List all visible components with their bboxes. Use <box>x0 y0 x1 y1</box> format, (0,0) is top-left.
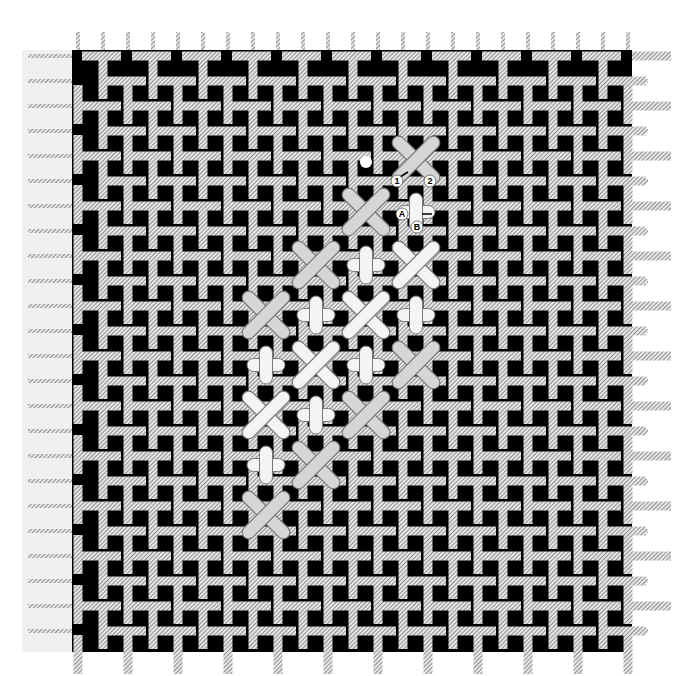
weft-thread <box>432 402 471 411</box>
warp-thread <box>149 260 158 299</box>
weft-thread <box>207 127 246 136</box>
warp-thread <box>574 285 583 324</box>
warp-thread <box>374 85 383 124</box>
weft-thread <box>132 152 171 161</box>
warp-thread <box>99 110 108 149</box>
warp-thread <box>99 360 108 399</box>
thread-end-top <box>601 32 605 50</box>
warp-thread <box>574 385 583 424</box>
warp-thread <box>349 510 358 549</box>
warp-thread <box>174 635 183 674</box>
weft-thread <box>182 402 221 411</box>
warp-thread <box>124 285 133 324</box>
weft-thread <box>257 577 296 586</box>
thread-end-left <box>28 629 72 633</box>
weft-thread <box>582 152 621 161</box>
warp-thread <box>549 510 558 549</box>
weft-thread <box>207 427 246 436</box>
warp-thread <box>449 110 458 149</box>
warp-thread <box>524 235 533 274</box>
warp-thread <box>299 510 308 549</box>
warp-thread <box>399 460 408 499</box>
thread-end-left <box>28 329 72 333</box>
weft-thread <box>457 477 496 486</box>
warp-thread <box>149 560 158 599</box>
weft-thread <box>632 352 671 361</box>
warp-thread <box>299 160 308 199</box>
warp-thread <box>224 185 233 224</box>
warp-thread <box>124 535 133 574</box>
warp-thread <box>549 410 558 449</box>
warp-thread <box>399 60 408 99</box>
start-dot-icon <box>360 156 372 168</box>
weft-thread <box>307 227 346 236</box>
weft-thread <box>632 202 671 211</box>
warp-thread <box>74 585 83 624</box>
thread-end-top <box>376 32 380 50</box>
warp-thread <box>574 535 583 574</box>
warp-thread <box>449 260 458 299</box>
warp-thread <box>424 485 433 524</box>
warp-thread <box>624 585 633 624</box>
warp-thread <box>174 535 183 574</box>
weft-thread <box>407 77 446 86</box>
weft-thread <box>107 177 146 186</box>
weft-thread <box>632 52 671 61</box>
weft-thread <box>182 302 221 311</box>
warp-thread <box>474 485 483 524</box>
weft-thread <box>182 52 221 61</box>
weft-thread <box>582 352 621 361</box>
weft-thread <box>532 352 571 361</box>
left-margin <box>22 50 72 652</box>
thread-end-left <box>28 529 72 533</box>
warp-thread <box>474 185 483 224</box>
thread-end-top <box>76 32 80 50</box>
weft-thread <box>357 627 396 636</box>
weft-thread <box>82 452 121 461</box>
weft-thread <box>132 552 171 561</box>
thread-end-top <box>451 32 455 50</box>
warp-thread <box>224 235 233 274</box>
point-label: A <box>399 209 406 219</box>
warp-thread <box>99 160 108 199</box>
point-label: 2 <box>427 176 432 186</box>
warp-thread <box>424 435 433 474</box>
weft-thread <box>632 402 671 411</box>
weft-thread <box>157 377 196 386</box>
stitch-arm-vertical <box>310 396 323 434</box>
weft-thread <box>257 277 296 286</box>
weft-thread <box>457 327 496 336</box>
warp-thread <box>99 310 108 349</box>
warp-thread <box>99 410 108 449</box>
weft-thread <box>82 252 121 261</box>
warp-thread <box>499 310 508 349</box>
weft-thread <box>82 52 121 61</box>
warp-thread <box>174 385 183 424</box>
weft-thread <box>482 352 521 361</box>
warp-thread <box>624 185 633 224</box>
weft-thread <box>182 552 221 561</box>
warp-thread <box>374 535 383 574</box>
warp-thread <box>124 585 133 624</box>
weft-thread <box>557 427 596 436</box>
thread-end-left <box>28 354 72 358</box>
weft-thread <box>632 252 671 261</box>
warp-thread <box>524 135 533 174</box>
weft-thread <box>332 52 371 61</box>
warp-thread <box>524 285 533 324</box>
warp-thread <box>599 60 608 99</box>
weft-thread <box>607 377 646 386</box>
warp-thread <box>149 210 158 249</box>
weft-thread <box>557 177 596 186</box>
weft-thread <box>107 627 146 636</box>
weft-thread <box>457 127 496 136</box>
warp-thread <box>124 485 133 524</box>
warp-thread <box>349 560 358 599</box>
weft-thread <box>432 552 471 561</box>
weft-thread <box>632 502 671 511</box>
thread-end-left <box>28 129 72 133</box>
warp-thread <box>199 560 208 599</box>
warp-thread <box>224 335 233 374</box>
thread-end-top <box>626 32 630 50</box>
weft-thread <box>557 227 596 236</box>
